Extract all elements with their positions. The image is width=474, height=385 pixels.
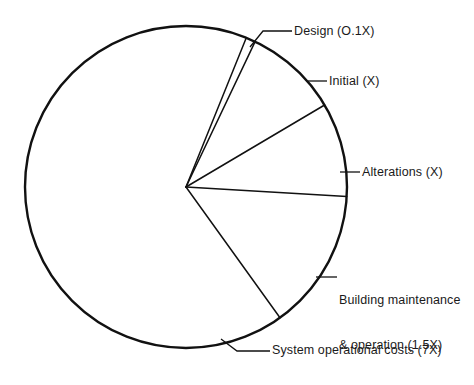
slice-label-alterations: Alterations (X) xyxy=(362,165,443,180)
slice-label-design: Design (O.1X) xyxy=(294,24,375,39)
pie-chart-figure: Design (O.1X) Initial (X) Alterations (X… xyxy=(0,0,474,385)
slice-label-system: System operational costs (7X) xyxy=(272,343,442,358)
slice-label-initial: Initial (X) xyxy=(329,74,379,89)
slice-label-building: Building maintenance & operation (1.5X) xyxy=(339,263,461,383)
slice-label-building-line1: Building maintenance xyxy=(339,293,461,308)
